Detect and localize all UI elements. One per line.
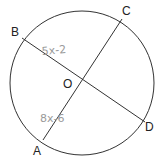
point-label-d: D — [145, 120, 154, 134]
point-label-b: B — [11, 25, 19, 39]
circle-diagram: B C D A O 5x-2 8x-6 — [0, 0, 161, 164]
annotation-ao: 8x-6 — [40, 112, 64, 125]
circle — [10, 11, 154, 155]
point-label-a: A — [33, 144, 41, 158]
annotation-bo: 5x-2 — [41, 43, 67, 58]
point-label-c: C — [122, 4, 131, 18]
diameter-bd — [22, 38, 145, 122]
center-label-o: O — [63, 77, 72, 91]
